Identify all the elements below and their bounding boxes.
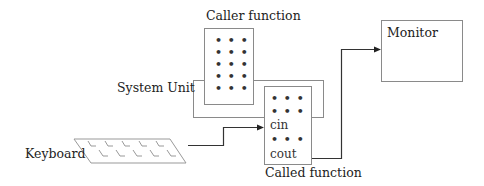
called-function-label: Called function	[265, 167, 362, 180]
caller-ellipsis-row: • • •	[215, 59, 249, 70]
caller-ellipsis-row: • • •	[215, 71, 249, 82]
caller-function-label: Caller function	[206, 10, 301, 23]
keyboard-to-cin-arrow	[188, 125, 264, 146]
keyboard-icon	[74, 139, 186, 163]
caller-ellipsis-row: • • •	[215, 47, 249, 58]
keyboard-label: Keyboard	[25, 148, 85, 161]
cout-label: cout	[270, 148, 297, 160]
called-ellipsis-row: • • •	[271, 134, 305, 145]
called-ellipsis-row: • • •	[271, 106, 305, 117]
system-unit-label: System Unit	[117, 82, 195, 95]
called-ellipsis-row: • • •	[271, 93, 305, 104]
cin-label: cin	[270, 119, 288, 131]
caller-ellipsis-row: • • •	[215, 35, 249, 46]
monitor-label: Monitor	[387, 27, 438, 40]
cout-to-monitor-arrow	[312, 47, 381, 159]
caller-ellipsis-row: • • •	[215, 83, 249, 94]
